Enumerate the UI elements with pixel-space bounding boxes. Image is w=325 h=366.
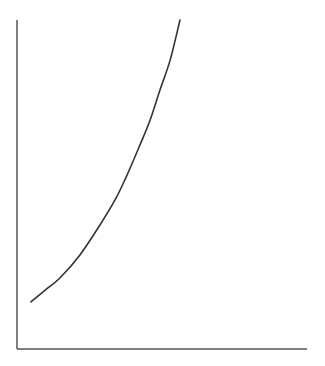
line-chart xyxy=(0,0,325,366)
data-curve xyxy=(31,20,180,302)
chart-container xyxy=(0,0,325,366)
